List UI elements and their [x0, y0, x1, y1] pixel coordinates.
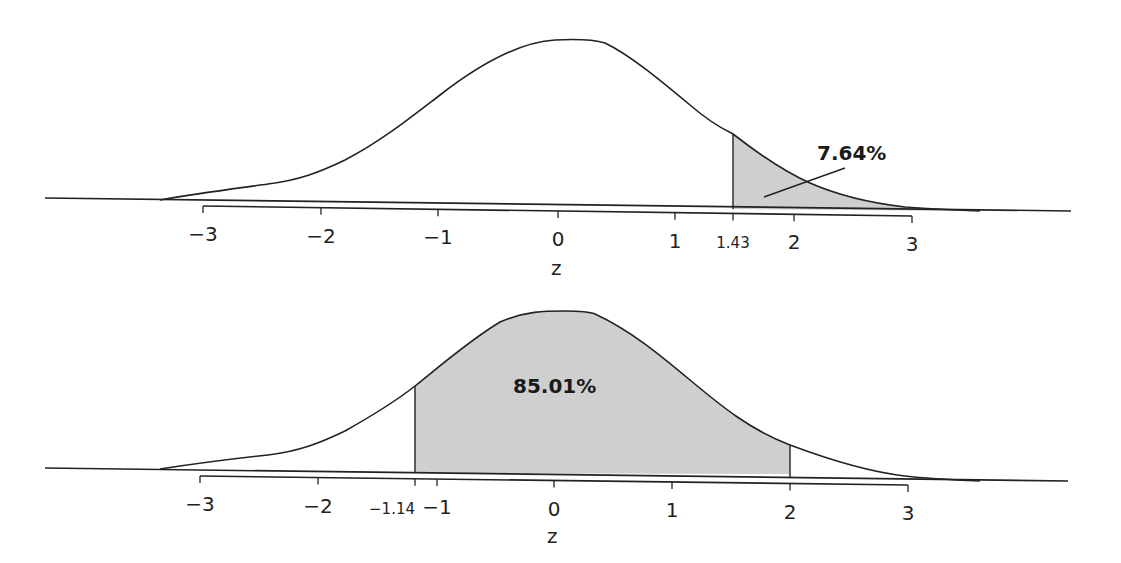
top-annotation-label: 7.64% [817, 141, 886, 165]
top-axis-title: z [551, 256, 562, 280]
axis-tick-label: 2 [788, 230, 801, 254]
axis-tick-label: −3 [188, 222, 217, 246]
normal-distribution-figure: 7.64% −3−2−1011.4323 z 85.01% −3−2−1.14−… [0, 0, 1121, 563]
axis-tick-label: 1 [669, 229, 682, 253]
axis-tick-label: 3 [902, 501, 915, 525]
axis-tick-label: 1.43 [716, 234, 749, 252]
axis-tick-label: −1 [423, 225, 452, 249]
axis-tick-label: −1.14 [369, 500, 415, 518]
axis-tick-label: −3 [185, 492, 214, 516]
axis-tick-label: −1 [422, 495, 451, 519]
top-normal-curve [160, 40, 980, 211]
top-chart: 7.64% −3−2−1011.4323 z [45, 40, 1071, 280]
top-axis-ticks: −3−2−1011.4323 [188, 206, 918, 256]
axis-tick-label: 3 [906, 232, 919, 256]
top-baseline [45, 198, 1071, 211]
bottom-annotation-label: 85.01% [513, 374, 596, 398]
axis-tick-label: −2 [306, 224, 335, 248]
axis-tick-label: 2 [784, 500, 797, 524]
axis-tick-label: −2 [303, 494, 332, 518]
axis-tick-label: 0 [548, 497, 561, 521]
bottom-shaded-region [415, 311, 790, 474]
bottom-chart: 85.01% −3−2−1.14−10123 z [45, 311, 1068, 548]
axis-tick-label: 0 [552, 227, 565, 251]
axis-tick-label: 1 [666, 498, 679, 522]
bottom-axis-title: z [547, 524, 558, 548]
